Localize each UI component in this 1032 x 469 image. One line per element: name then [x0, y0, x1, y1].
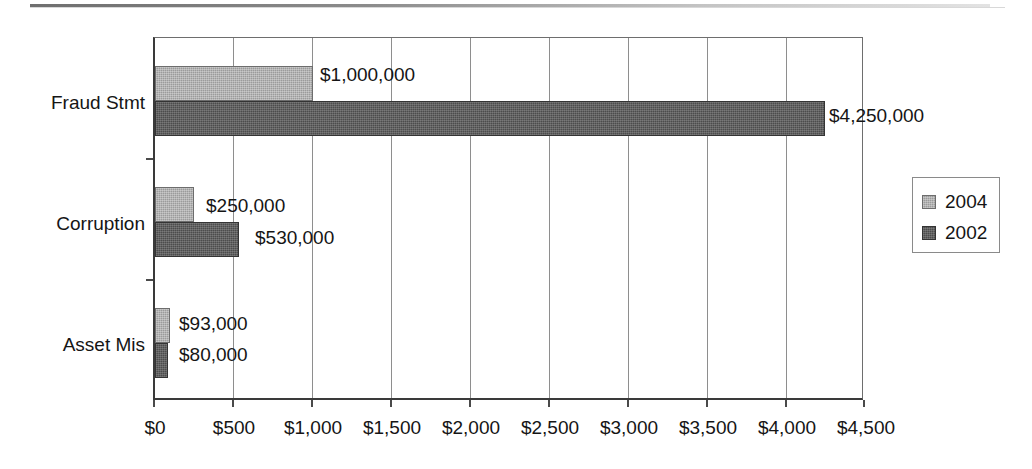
gridline-4000 — [786, 38, 787, 398]
x-axis-tick-2500 — [548, 400, 550, 407]
x-axis-tick-500 — [232, 400, 234, 407]
y-axis-label-fraud-stmt: Fraud Stmt — [51, 93, 145, 112]
data-label-fraud-stmt-2002: $4,250,000 — [829, 106, 924, 125]
x-axis-tick-3500 — [706, 400, 708, 407]
chart-legend: 2004 2002 — [912, 177, 1000, 253]
bar-corruption-2002[interactable] — [155, 222, 239, 257]
x-axis-tick-2000 — [469, 400, 471, 407]
legend-item-2002[interactable]: 2002 — [922, 223, 987, 242]
x-axis-tick-0 — [153, 400, 155, 407]
legend-swatch-2002-icon — [922, 226, 936, 240]
legend-label-2004: 2004 — [945, 192, 987, 211]
data-label-corruption-2004: $250,000 — [206, 196, 285, 215]
legend-label-2002: 2002 — [945, 223, 987, 242]
x-axis-label-1000: $1,000 — [284, 418, 342, 437]
bar-asset-mis-2002[interactable] — [155, 343, 168, 378]
data-label-asset-mis-2002: $80,000 — [179, 345, 248, 364]
x-axis-tick-1000 — [311, 400, 313, 407]
x-axis-tick-4000 — [785, 400, 787, 407]
legend-swatch-2004-icon — [922, 195, 936, 209]
bar-fraud-stmt-2004[interactable] — [155, 66, 313, 101]
x-axis-label-1500: $1,500 — [363, 418, 421, 437]
data-label-fraud-stmt-2004: $1,000,000 — [320, 65, 415, 84]
y-axis-category-labels: Fraud Stmt Corruption Asset Mis — [0, 0, 145, 469]
gridline-2500 — [549, 38, 550, 398]
legend-item-2004[interactable]: 2004 — [922, 192, 987, 211]
data-label-corruption-2002: $530,000 — [255, 228, 334, 247]
gridline-3500 — [707, 38, 708, 398]
x-axis-label-0: $0 — [144, 418, 165, 437]
x-axis-tick-1500 — [390, 400, 392, 407]
data-label-asset-mis-2004: $93,000 — [179, 314, 248, 333]
bar-fraud-stmt-2002[interactable] — [155, 101, 825, 136]
plot-area — [153, 37, 863, 400]
bar-corruption-2004[interactable] — [155, 187, 194, 222]
y-axis-label-asset-mis: Asset Mis — [63, 335, 145, 354]
gridline-1500 — [391, 38, 392, 398]
gridline-2000 — [470, 38, 471, 398]
x-axis-label-2000: $2,000 — [442, 418, 500, 437]
x-axis-tick-3000 — [627, 400, 629, 407]
x-axis-label-3500: $3,500 — [679, 418, 737, 437]
x-axis-label-3000: $3,000 — [600, 418, 658, 437]
x-axis-tick-4500 — [863, 400, 865, 407]
x-axis-label-2500: $2,500 — [521, 418, 579, 437]
bar-asset-mis-2004[interactable] — [155, 308, 170, 343]
bar-chart: Fraud Stmt Corruption Asset Mis $1,000,0… — [0, 0, 1032, 469]
x-axis-label-500: $500 — [213, 418, 255, 437]
gridline-3000 — [628, 38, 629, 398]
y-axis-label-corruption: Corruption — [56, 214, 145, 233]
x-axis-label-4500: $4,500 — [837, 418, 895, 437]
x-axis-label-4000: $4,000 — [758, 418, 816, 437]
